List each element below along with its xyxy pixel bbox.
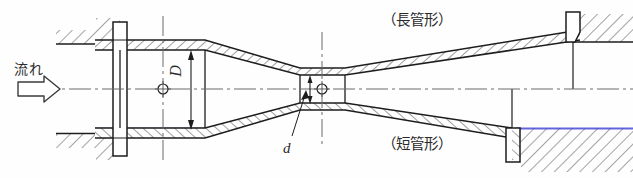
upper-pipe-wall xyxy=(90,26,586,82)
venturi-drawing-canvas xyxy=(0,0,633,178)
short-tube-type-label: （短管形） xyxy=(382,132,452,153)
lower-pipe-wall xyxy=(90,96,518,146)
dimension-label-D: D xyxy=(167,65,185,77)
wall-hatching-bottom-right xyxy=(512,128,633,172)
flow-arrow-icon xyxy=(18,76,60,102)
center-mark-throat xyxy=(314,81,330,97)
dimension-label-d: d xyxy=(283,140,291,157)
flow-direction-label: 流れ xyxy=(14,58,43,78)
dimension-arrow-D xyxy=(188,50,194,130)
long-tube-type-label: （長管形） xyxy=(382,8,452,29)
center-mark-inlet xyxy=(155,81,171,97)
right-flange-long-type xyxy=(566,12,580,89)
venturi-tube-figure: 流れ （長管形） （短管形） D d xyxy=(0,0,633,178)
wall-hatching-top-right xyxy=(572,14,633,42)
right-flange-short-type xyxy=(506,89,520,162)
